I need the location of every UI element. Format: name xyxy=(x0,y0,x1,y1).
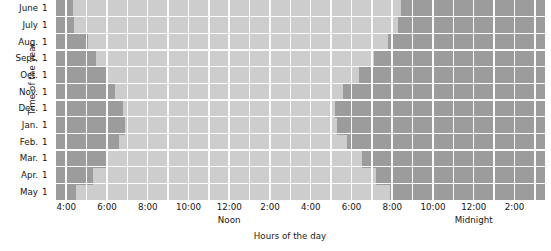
grid-line-vertical xyxy=(310,0,312,200)
x-tick-label: 2:00 xyxy=(248,201,292,213)
y-tick-month: May xyxy=(20,186,38,198)
x-tick-label: 4:00 xyxy=(44,201,88,213)
night-block-evening xyxy=(343,83,545,101)
y-tick-feb: Feb.1 xyxy=(0,136,52,148)
x-tick-label: 4:00 xyxy=(289,201,333,213)
y-tick-month: Dec. xyxy=(18,102,38,114)
y-tick-june: June1 xyxy=(0,2,52,14)
night-block-morning xyxy=(56,83,115,101)
night-block-evening xyxy=(335,100,545,118)
grid-line-vertical xyxy=(228,0,230,200)
y-tick-day: 1 xyxy=(42,69,52,81)
y-tick-month: Oct. xyxy=(20,69,38,81)
night-block-morning xyxy=(56,67,106,85)
y-tick-day: 1 xyxy=(42,102,52,114)
y-tick-jan: Jan.1 xyxy=(0,119,52,131)
night-block-evening xyxy=(388,33,545,51)
night-block-morning xyxy=(56,0,73,18)
x-anchor-noon: Noon xyxy=(199,214,259,226)
night-block-morning xyxy=(56,133,119,151)
y-tick-month: July xyxy=(22,19,38,31)
night-block-evening xyxy=(359,67,545,85)
y-tick-month: June xyxy=(19,2,38,14)
y-tick-month: Nov. xyxy=(19,86,38,98)
night-block-morning xyxy=(56,150,107,168)
x-tick-label: 10:00 xyxy=(166,201,210,213)
y-tick-apr: Apr.1 xyxy=(0,169,52,181)
x-tick-label: 12:00 xyxy=(452,201,496,213)
y-tick-mar: Mar.1 xyxy=(0,152,52,164)
night-block-evening xyxy=(374,50,545,68)
x-tick-label: 6:00 xyxy=(329,201,373,213)
x-tick-label: 6:00 xyxy=(85,201,129,213)
y-tick-oct: Oct.1 xyxy=(0,69,52,81)
y-tick-day: 1 xyxy=(42,19,52,31)
y-tick-day: 1 xyxy=(42,52,52,64)
x-tick-label: 2:00 xyxy=(492,201,536,213)
y-tick-month: Sept. xyxy=(15,52,38,64)
y-tick-month: Apr. xyxy=(21,169,38,181)
sunrise-sunset-chart: Time of the year June1July1Aug.1Sept.1Oc… xyxy=(0,0,551,251)
grid-line-vertical xyxy=(147,0,149,200)
y-tick-aug: Aug.1 xyxy=(0,36,52,48)
y-tick-day: 1 xyxy=(42,186,52,198)
y-tick-nov: Nov.1 xyxy=(0,86,52,98)
night-block-evening xyxy=(401,0,545,18)
y-tick-sept: Sept.1 xyxy=(0,52,52,64)
x-anchor-midnight: Midnight xyxy=(444,214,504,226)
night-block-morning xyxy=(56,100,123,118)
x-tick-label: 12:00 xyxy=(207,201,251,213)
night-block-evening xyxy=(347,133,545,151)
x-tick-label: 8:00 xyxy=(126,201,170,213)
night-block-evening xyxy=(376,167,545,185)
grid-line-vertical xyxy=(249,0,251,200)
night-block-morning xyxy=(56,117,125,135)
night-block-morning xyxy=(56,33,88,51)
night-block-evening xyxy=(337,117,545,135)
x-tick-label: 10:00 xyxy=(411,201,455,213)
grid-line-vertical xyxy=(167,0,169,200)
grid-line-vertical xyxy=(208,0,210,200)
grid-line-vertical xyxy=(330,0,332,200)
y-tick-month: Mar. xyxy=(20,152,38,164)
chart-plot-area xyxy=(56,0,545,200)
night-block-evening xyxy=(390,183,545,200)
x-axis-tick-labels: 4:006:008:0010:0012:002:004:006:008:0010… xyxy=(56,201,551,215)
y-tick-day: 1 xyxy=(42,36,52,48)
grid-line-vertical xyxy=(269,0,271,200)
y-tick-dec: Dec.1 xyxy=(0,102,52,114)
y-tick-day: 1 xyxy=(42,86,52,98)
night-block-morning xyxy=(56,167,93,185)
night-block-evening xyxy=(362,150,545,168)
night-block-morning xyxy=(56,50,96,68)
y-tick-day: 1 xyxy=(42,2,52,14)
x-axis-anchor-labels: NoonMidnight xyxy=(56,214,551,228)
y-tick-day: 1 xyxy=(42,152,52,164)
y-tick-month: Feb. xyxy=(20,136,38,148)
y-tick-day: 1 xyxy=(42,169,52,181)
y-tick-day: 1 xyxy=(42,136,52,148)
y-tick-day: 1 xyxy=(42,119,52,131)
y-tick-month: Aug. xyxy=(18,36,38,48)
night-block-morning xyxy=(56,17,74,35)
grid-line-vertical xyxy=(188,0,190,200)
y-tick-may: May1 xyxy=(0,186,52,198)
grid-line-vertical xyxy=(127,0,129,200)
y-tick-month: Jan. xyxy=(22,119,38,131)
grid-line-vertical xyxy=(290,0,292,200)
night-block-evening xyxy=(398,17,545,35)
x-tick-label: 8:00 xyxy=(370,201,414,213)
night-block-morning xyxy=(56,183,76,200)
x-axis-title: Hours of the day xyxy=(200,231,380,241)
y-tick-july: July1 xyxy=(0,19,52,31)
y-axis-tick-labels: June1July1Aug.1Sept.1Oct.1Nov.1Dec.1Jan.… xyxy=(0,0,52,200)
